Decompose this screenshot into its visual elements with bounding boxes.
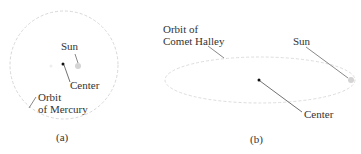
caption-a: (a) [56, 131, 68, 143]
center-leader-b [260, 81, 302, 112]
sun-leader-a [75, 54, 78, 63]
center-label-b: Center [304, 108, 333, 120]
orbit-leader-b [208, 46, 224, 58]
sun-leader-b [306, 47, 348, 78]
halley-sun [348, 77, 354, 83]
mercury-sun [75, 63, 81, 69]
sun-label-b: Sun [293, 35, 310, 47]
orbit-leader-a [29, 97, 36, 108]
orbit-label-b-line1: Orbit of [163, 23, 198, 35]
sun-label-a: Sun [61, 40, 78, 52]
mercury-faint-point [50, 65, 53, 68]
center-label-a: Center [70, 79, 99, 91]
orbit-label-b-line2: Comet Halley [163, 35, 224, 47]
orbit-label-a-line2: of Mercury [38, 103, 88, 115]
caption-b: (b) [250, 133, 263, 145]
orbit-label-a-line1: Orbit [38, 91, 61, 103]
